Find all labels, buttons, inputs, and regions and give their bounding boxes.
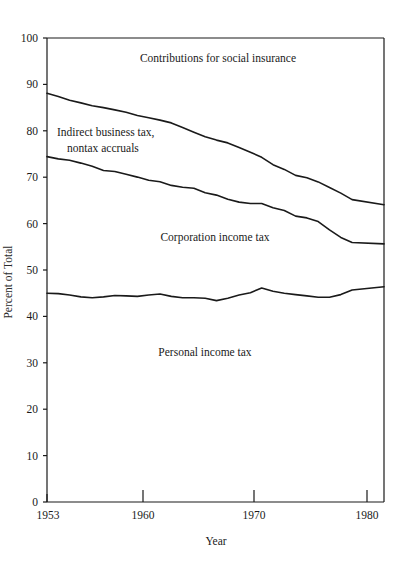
y-tick-label-100: 100 [21, 32, 39, 44]
band-annotations: Contributions for social insurance Indir… [57, 52, 296, 358]
y-tick-label-70: 70 [27, 171, 39, 183]
y-tick-label-30: 30 [27, 357, 39, 369]
x-tick-label-1980: 1980 [356, 509, 379, 521]
x-axis-title: Year [205, 535, 226, 547]
data-series-group [47, 93, 384, 300]
x-axis-ticks [47, 490, 367, 502]
x-tick-label-1970: 1970 [243, 509, 266, 521]
x-tick-label-1960: 1960 [132, 509, 155, 521]
band-label-corporation-income-tax: Corporation income tax [160, 231, 269, 244]
y-tick-label-20: 20 [27, 403, 39, 415]
x-axis-tick-labels: 1953 1960 1970 1980 [37, 509, 379, 521]
y-tick-label-0: 0 [32, 496, 38, 508]
y-tick-label-90: 90 [27, 78, 39, 90]
x-tick-label-1953: 1953 [37, 509, 60, 521]
y-tick-label-80: 80 [27, 125, 39, 137]
y-axis-title: Percent of Total [2, 245, 14, 318]
y-axis-tick-labels: 100 90 80 70 60 50 40 30 20 10 0 [21, 32, 39, 508]
stacked-share-line-chart: 100 90 80 70 60 50 40 30 20 10 0 1953 19… [0, 0, 404, 566]
band-label-contributions-for-social-insurance: Contributions for social insurance [140, 52, 296, 64]
y-tick-label-50: 50 [27, 264, 39, 276]
band-label-indirect-business-tax-line1: Indirect business tax, [57, 126, 155, 139]
chart-figure: 100 90 80 70 60 50 40 30 20 10 0 1953 19… [0, 0, 404, 566]
y-tick-label-60: 60 [27, 218, 39, 230]
series-line-personal-income-tax [47, 287, 384, 301]
band-label-indirect-business-tax-line2: nontax accruals [67, 142, 139, 154]
y-tick-label-40: 40 [27, 310, 39, 322]
plot-frame [47, 38, 384, 502]
band-label-personal-income-tax: Personal income tax [158, 346, 252, 358]
y-tick-label-10: 10 [27, 450, 39, 462]
